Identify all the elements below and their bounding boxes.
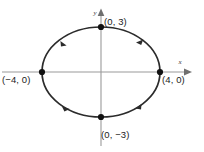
vertex-point-left [39, 69, 45, 75]
x-axis-label: x [177, 58, 182, 66]
direction-arrow-icon-upper-left [60, 41, 66, 47]
vertex-label-top: (0, 3) [104, 16, 127, 27]
y-axis-label: y [92, 9, 97, 17]
vertex-label-right: (4, 0) [162, 74, 185, 85]
y-axis-arrow-icon [98, 9, 105, 17]
ellipse-graph-figure: x y (0, 3) (4, 0) (−4, 0) (0, −3) [0, 0, 204, 152]
vertex-label-bottom: (0, −3) [101, 129, 129, 140]
vertex-point-bottom [98, 114, 104, 120]
x-axis-arrow-icon [184, 69, 192, 76]
direction-arrow-icon-upper-right [136, 40, 143, 45]
vertex-label-left: (−4, 0) [2, 74, 30, 85]
